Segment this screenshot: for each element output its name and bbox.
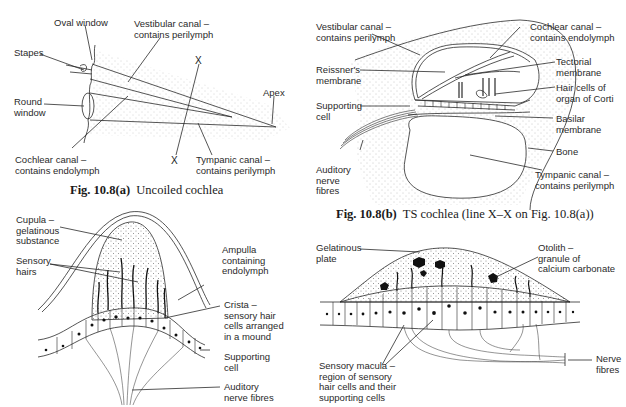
fig-c-crista-ampulla (38, 212, 220, 405)
label-oval-window: Oval window (54, 18, 108, 29)
label-x-bottom: X (171, 155, 178, 166)
label-cochlear-canal-b: Cochlear canal – contains endolymph (530, 22, 615, 43)
label-tympanic-canal-b: Tympanic canal – contains perilymph (535, 170, 614, 191)
label-nerve-fibres-d: Nerve fibres (596, 354, 621, 375)
fig-a-uncoiled-cochlea (40, 25, 290, 155)
label-gelatinous-plate: Gelatinous plate (316, 243, 361, 264)
label-supporting-cell-b: Supporting cell (316, 101, 362, 122)
label-round-window: Round window (14, 97, 46, 118)
label-vestibular-canal-b: Vestibular canal – contains perilymph (316, 22, 395, 43)
label-hair-cells: Hair cells of organ of Corti (556, 83, 614, 104)
label-auditory-nerve-b: Auditory nerve fibres (316, 165, 351, 197)
label-x-top: X (195, 55, 202, 66)
label-tectorial-membrane: Tectorial membrane (556, 57, 601, 78)
label-sensory-macula: Sensory macula – region of sensory hair … (319, 361, 396, 403)
label-cupula: Cupula – gelatinous substance (16, 215, 59, 247)
label-supporting-cell-c: Supporting cell (224, 352, 270, 373)
label-stapes: Stapes (14, 48, 44, 59)
caption-fig-b-text: TS cochlea (line X–X on Fig. 10.8(a)) (403, 207, 594, 221)
caption-fig-b-number: Fig. 10.8(b) (336, 207, 397, 221)
caption-fig-b: Fig. 10.8(b) TS cochlea (line X–X on Fig… (336, 207, 594, 222)
label-crista: Crista – sensory hair cells arranged in … (224, 300, 284, 342)
label-bone: Bone (556, 147, 578, 158)
label-reissners-membrane: Reissner's membrane (316, 65, 361, 86)
caption-fig-a-number: Fig. 10.8(a) (70, 183, 130, 197)
caption-fig-a-text: Uncoiled cochlea (136, 183, 223, 197)
label-auditory-nerve-c: Auditory nerve fibres (224, 382, 274, 403)
label-cochlear-canal-a: Cochlear canal – contains endolymph (15, 155, 100, 176)
label-tympanic-canal-a: Tympanic canal – contains perilymph (196, 155, 275, 176)
caption-fig-a: Fig. 10.8(a) Uncoiled cochlea (70, 183, 223, 198)
label-sensory-hairs: Sensory hairs (16, 256, 51, 277)
diagram-artwork (0, 0, 626, 407)
label-vestibular-canal-a: Vestibular canal – contains perilymph (134, 19, 213, 40)
label-ampulla: Ampulla containing endolymph (222, 245, 268, 277)
label-apex: Apex (263, 88, 285, 99)
label-otolith: Otolith – granule of calcium carbonate (538, 243, 615, 275)
label-basilar-membrane: Basilar membrane (556, 114, 601, 135)
